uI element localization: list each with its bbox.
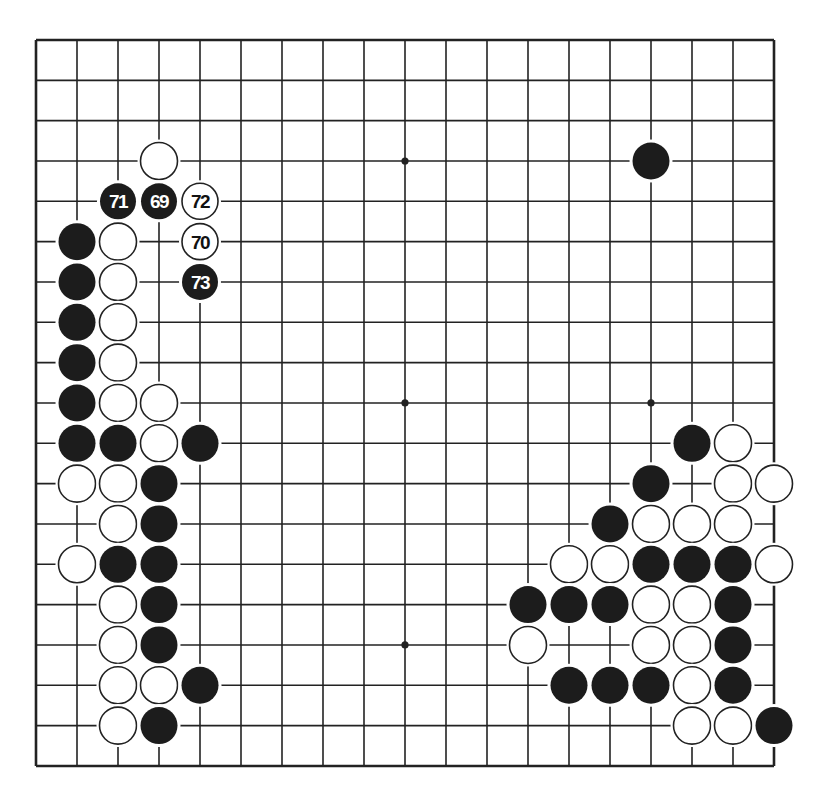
white-stone [712,462,755,505]
white-stone-numbered: 70 [179,221,221,263]
black-stone [138,543,181,586]
black-stone [712,543,755,586]
black-stone [97,543,140,586]
black-stone [138,583,181,626]
white-stone [97,623,140,666]
white-stone [97,341,140,384]
star-point [401,641,408,648]
white-stone [712,704,755,747]
white-stone [138,381,181,424]
white-stone [97,664,140,707]
white-stone [589,543,632,586]
star-point [401,157,408,164]
white-stone [97,381,140,424]
black-stone [56,220,99,263]
black-stone [138,623,181,666]
black-stone [56,422,99,465]
black-stone [138,462,181,505]
black-stone [97,422,140,465]
white-stone [97,583,140,626]
black-stone [630,462,673,505]
white-stone [138,139,181,182]
white-stone [97,301,140,344]
black-stone [712,623,755,666]
black-stone [548,664,591,707]
star-point [401,399,408,406]
black-stone [56,301,99,344]
black-stone-numbered: 73 [179,261,221,303]
white-stone [630,583,673,626]
black-stone [589,583,632,626]
star-point [647,399,654,406]
move-number-label: 71 [109,191,129,212]
black-stone [671,422,714,465]
white-stone [548,543,591,586]
white-stone [138,422,181,465]
move-number-label: 72 [191,191,210,212]
black-stone [630,543,673,586]
black-stone [56,341,99,384]
black-stone [630,139,673,182]
white-stone [56,462,99,505]
white-stone [753,462,796,505]
black-stone [589,502,632,545]
black-stone [630,664,673,707]
white-stone [507,623,550,666]
move-number-label: 70 [191,232,210,253]
black-stone [179,664,222,707]
white-stone [97,220,140,263]
black-stone [507,583,550,626]
white-stone [97,260,140,303]
white-stone [630,623,673,666]
black-stone [753,704,796,747]
white-stone [712,422,755,465]
black-stone [548,583,591,626]
white-stone [138,664,181,707]
black-stone-numbered: 71 [97,180,139,222]
white-stone [671,502,714,545]
black-stone [589,664,632,707]
white-stone [671,583,714,626]
white-stone [97,502,140,545]
move-number-label: 73 [191,272,210,293]
white-stone [712,502,755,545]
black-stone [712,583,755,626]
white-stone [630,502,673,545]
move-number-label: 69 [150,191,169,212]
white-stone [97,704,140,747]
white-stone [97,462,140,505]
black-stone [179,422,222,465]
white-stone [671,664,714,707]
black-stone [671,543,714,586]
white-stone [671,704,714,747]
white-stone-numbered: 72 [179,180,221,222]
go-board[interactable]: 7169727073 [0,0,832,802]
black-stone [712,664,755,707]
black-stone [56,381,99,424]
black-stone [56,260,99,303]
white-stone [671,623,714,666]
black-stone [138,704,181,747]
black-stone-numbered: 69 [138,180,180,222]
black-stone [138,502,181,545]
white-stone [56,543,99,586]
white-stone [753,543,796,586]
